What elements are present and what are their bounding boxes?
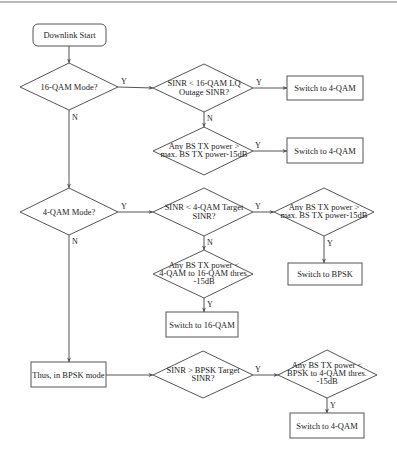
node-label: SINR? <box>192 211 215 221</box>
edge-label-n: N <box>207 238 213 247</box>
node-label: Thus, in BPSK mode <box>32 370 104 380</box>
node-label: max. BS TX power-15dB <box>160 149 247 159</box>
edge-label-y: Y <box>121 77 127 86</box>
node-sinr-4qam-target-decision: SINR < 4-QAM Target SINR? <box>153 188 253 236</box>
node-label: max. BS TX power-15dB <box>280 210 367 220</box>
edge-label-y: Y <box>255 365 261 374</box>
node-switch-to-16qam: Switch to 16-QAM <box>166 312 238 337</box>
node-label: Switch to 4-QAM <box>296 421 358 431</box>
node-label: Downlink Start <box>43 30 96 40</box>
node-bs-tx-power-max-decision: Any BS TX power > max. BS TX power-15dB <box>274 188 374 236</box>
edge-label-y: Y <box>256 78 262 87</box>
flowchart-canvas: Y N Y N Y Y N Y N Y Y Y Y Downlink Start… <box>0 0 397 459</box>
node-switch-to-4qam: Switch to 4-QAM <box>287 76 363 100</box>
edge-label-n: N <box>72 237 78 246</box>
edge-label-n: N <box>207 114 213 123</box>
node-label: Outage SINR? <box>179 87 229 97</box>
node-downlink-start: Downlink Start <box>33 24 106 46</box>
node-bs-tx-power-max-decision: Any BS TX power > max. BS TX power-15dB <box>153 127 253 175</box>
node-label: Switch to BPSK <box>297 269 354 279</box>
node-label: Switch to 16-QAM <box>169 320 235 330</box>
edge-label-n: N <box>72 113 78 122</box>
node-bpsk-mode: Thus, in BPSK mode <box>31 362 106 387</box>
edge-label-y: Y <box>330 401 336 410</box>
edge-label-y: Y <box>327 239 333 248</box>
node-bs-tx-power-4qam-to-16qam-decision: Any BS TX power < 4-QAM to 16-QAM thres.… <box>153 250 253 298</box>
node-label: SINR? <box>191 373 214 383</box>
edge-label-y: Y <box>121 202 127 211</box>
edge-label-y: Y <box>255 202 261 211</box>
edge-q16-sinr16 <box>118 87 153 88</box>
node-switch-to-4qam: Switch to 4-QAM <box>290 413 364 438</box>
node-label: -15dB <box>316 376 338 386</box>
node-bs-tx-power-bpsk-to-4qam-decision: Any BS TX power < BPSK to 4-QAM thres. -… <box>278 350 377 398</box>
node-16qam-mode-decision: 16-QAM Mode? <box>20 63 118 110</box>
node-label: 16-QAM Mode? <box>41 82 98 92</box>
node-label: Switch to 4-QAM <box>294 146 356 156</box>
node-label: 4-QAM Mode? <box>43 207 96 217</box>
edge-label-y: Y <box>207 300 213 309</box>
node-label: Switch to 4-QAM <box>294 83 356 93</box>
node-sinr-bpsk-target-decision: SINR > BPSK Target SINR? <box>153 351 253 398</box>
edge-label-y: Y <box>255 141 261 150</box>
node-switch-to-bpsk: Switch to BPSK <box>288 263 362 285</box>
node-label: -15dB <box>193 276 215 286</box>
node-4qam-mode-decision: 4-QAM Mode? <box>20 188 118 235</box>
node-switch-to-4qam: Switch to 4-QAM <box>287 138 363 163</box>
node-sinr-16qam-outage-decision: SINR < 16-QAM LQ Outage SINR? <box>153 64 253 112</box>
